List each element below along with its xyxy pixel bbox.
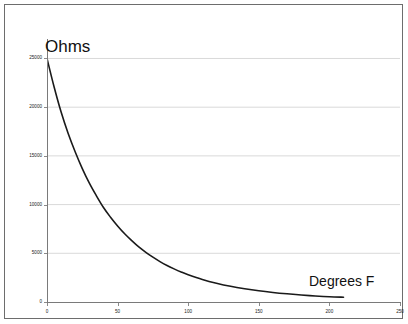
figure-frame: 0500010000150002000025000 05010015020025… [4, 4, 403, 319]
x-tick-label: 250 [396, 310, 404, 315]
y-tick-label: 15000 [13, 154, 42, 159]
x-tick-mark [47, 303, 48, 306]
resistance-curve [47, 39, 400, 302]
y-tick-label: 5000 [13, 251, 42, 256]
x-tick-label: 50 [115, 310, 120, 315]
y-tick-mark [44, 253, 47, 254]
x-tick-mark [118, 303, 119, 306]
y-axis-line [47, 39, 48, 303]
x-tick-mark [400, 303, 401, 306]
y-tick-label: 10000 [13, 202, 42, 207]
x-axis-line [47, 302, 401, 303]
y-tick-mark [44, 58, 47, 59]
y-tick-label: 25000 [13, 56, 42, 61]
x-tick-label: 150 [255, 310, 263, 315]
y-tick-mark [44, 205, 47, 206]
chart-screenshot: 0500010000150002000025000 05010015020025… [0, 0, 408, 324]
y-tick-label: 20000 [13, 105, 42, 110]
x-tick-label: 200 [326, 310, 334, 315]
y-tick-label: 0 [13, 300, 42, 305]
y-axis-title: Ohms [45, 37, 90, 57]
x-tick-label: 0 [46, 310, 49, 315]
y-tick-mark [44, 107, 47, 108]
y-tick-mark [44, 156, 47, 157]
x-tick-mark [259, 303, 260, 306]
x-tick-mark [188, 303, 189, 306]
x-axis-title: Degrees F [309, 273, 374, 289]
plot-area [47, 39, 400, 302]
x-tick-mark [329, 303, 330, 306]
x-tick-label: 100 [184, 310, 192, 315]
